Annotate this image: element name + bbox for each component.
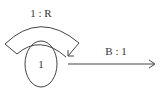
self-loop-arrowhead-icon bbox=[68, 43, 79, 56]
state-diagram: 1 : R 1 B : 1 bbox=[0, 0, 161, 94]
state-label: 1 bbox=[38, 58, 44, 70]
self-loop-arrow bbox=[5, 27, 79, 57]
self-loop-label: 1 : R bbox=[30, 7, 52, 19]
state-node-1[interactable]: 1 bbox=[25, 41, 57, 87]
exit-arrow bbox=[68, 60, 155, 68]
exit-transition-label: B : 1 bbox=[105, 45, 126, 57]
